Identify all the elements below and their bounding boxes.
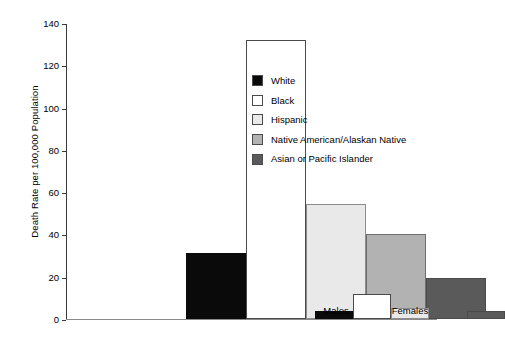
legend-label: White (271, 76, 295, 86)
bar (186, 253, 246, 319)
y-tick-label: 0 (54, 315, 59, 325)
x-group-label: Males (323, 305, 348, 316)
x-group-label: Females (392, 305, 428, 316)
legend-swatch-icon (252, 154, 263, 165)
y-tick-mark (62, 320, 66, 321)
legend-label: Native American/Alaskan Native (271, 135, 406, 145)
y-axis-line (66, 24, 67, 320)
y-tick-mark (62, 66, 66, 67)
y-tick-label: 120 (43, 62, 59, 72)
legend-item: Black (252, 91, 406, 111)
legend-label: Black (271, 96, 294, 106)
y-tick-label: 100 (43, 104, 59, 114)
legend-item: White (252, 71, 406, 91)
legend-swatch-icon (252, 75, 263, 86)
y-tick-mark (62, 109, 66, 110)
legend: WhiteBlackHispanicNative American/Alaska… (252, 71, 406, 169)
y-tick-mark (62, 235, 66, 236)
legend-swatch-icon (252, 114, 263, 125)
legend-swatch-icon (252, 134, 263, 145)
legend-label: Asian or Pacific Islander (271, 154, 373, 164)
bar (467, 311, 505, 319)
y-tick-label: 80 (48, 146, 59, 156)
y-tick-label: 20 (48, 273, 59, 283)
legend-label: Hispanic (271, 115, 307, 125)
legend-item: Asian or Pacific Islander (252, 149, 406, 169)
y-tick-label: 60 (48, 188, 59, 198)
y-axis-label: Death Rate per 100,000 Population (29, 42, 40, 282)
y-tick-mark (62, 278, 66, 279)
legend-item: Hispanic (252, 110, 406, 130)
y-tick-label: 40 (48, 231, 59, 241)
legend-swatch-icon (252, 95, 263, 106)
x-axis-line (66, 319, 437, 320)
y-tick-mark (62, 24, 66, 25)
bar (353, 294, 391, 319)
y-tick-mark (62, 193, 66, 194)
plot-area: 020406080100120140 (66, 24, 437, 320)
legend-item: Native American/Alaskan Native (252, 130, 406, 150)
y-tick-mark (62, 151, 66, 152)
y-tick-label: 140 (43, 19, 59, 29)
